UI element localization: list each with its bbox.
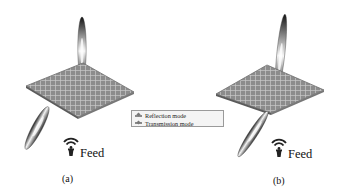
legend-item-reflection: Reflection mode: [135, 112, 220, 120]
metasurface-plate-b: [216, 65, 324, 115]
legend: Reflection mode Transmission mode: [131, 110, 224, 127]
panel-a: [21, 17, 134, 156]
figure-canvas: [0, 0, 348, 195]
transmission-beam-a: [21, 104, 52, 151]
feed-label-b: Feed: [288, 147, 312, 162]
panel-label-b: (b): [273, 175, 285, 186]
legend-marker-icon: [135, 122, 142, 124]
panel-label-a: (a): [62, 173, 73, 184]
legend-label: Reflection mode: [145, 112, 186, 119]
metasurface-plate-a: [26, 63, 134, 119]
transmission-beam-b: [235, 109, 272, 159]
feed-antenna-icon: [64, 139, 78, 156]
panel-b: [216, 14, 324, 159]
feed-antenna-icon: [272, 140, 286, 157]
legend-marker-icon: [135, 115, 142, 117]
legend-label: Transmission mode: [145, 120, 193, 127]
legend-item-transmission: Transmission mode: [135, 120, 220, 128]
feed-label-a: Feed: [80, 146, 104, 161]
